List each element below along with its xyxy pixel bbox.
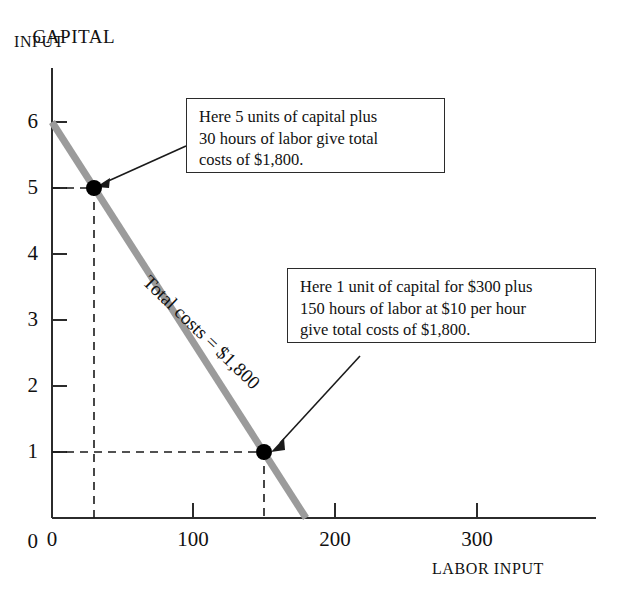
chart-figure: CAPITAL INPUT LABOR INPUT 6 5 4 3 2 1 0 … — [0, 0, 619, 593]
callout-capital-5: Here 5 units of capital plus 30 hours of… — [186, 98, 445, 173]
callout-1-line-1: Here 5 units of capital plus — [199, 106, 434, 128]
callout-2-line-2: 150 hours of labor at $10 per hour — [300, 298, 585, 320]
arrowhead-callout-2 — [271, 438, 285, 452]
callout-capital-1: Here 1 unit of capital for $300 plus 150… — [287, 268, 596, 343]
callout-2-line-1: Here 1 unit of capital for $300 plus — [300, 276, 585, 298]
data-point-a — [86, 180, 102, 196]
callout-2-line-3: give total costs of $1,800. — [300, 319, 585, 341]
data-point-b — [256, 444, 272, 460]
leader-line-callout-1 — [106, 146, 186, 182]
leader-line-callout-2 — [280, 356, 360, 443]
callout-1-line-2: 30 hours of labor give total — [199, 128, 434, 150]
callout-1-line-3: costs of $1,800. — [199, 149, 434, 171]
